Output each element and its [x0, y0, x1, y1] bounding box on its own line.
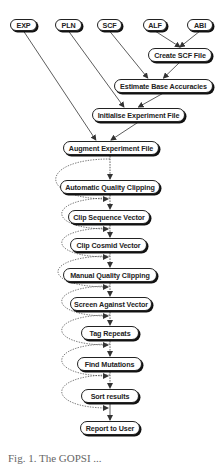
node-label: Initialise Experiment File [98, 111, 180, 120]
edge-scf-to-estimate [110, 31, 148, 78]
input-node-exp: EXP [10, 19, 37, 31]
node-label: Clip Cosmid Vector [76, 241, 140, 250]
node-label: ALF [148, 21, 162, 30]
node-label: ABI [194, 21, 206, 30]
input-node-abi: ABI [187, 19, 213, 31]
figure-caption: Fig. 1. The GOPSI ... [8, 452, 102, 464]
edge-alf-to-create_scf [155, 31, 180, 47]
process-node-estimate: Estimate Base Accuracies [114, 79, 213, 93]
process-node-mutations: Find Mutations [77, 357, 142, 371]
edge-estimate-to-initialise [139, 93, 164, 107]
node-label: Report to User [86, 424, 135, 433]
node-label: Find Mutations [85, 360, 135, 369]
process-node-sort: Sort results [81, 389, 139, 403]
node-label: EXP [16, 21, 30, 30]
process-node-report: Report to User [80, 421, 140, 435]
edge-abi-to-create_scf [180, 31, 200, 47]
edge-exp-to-augment [24, 31, 96, 140]
node-label: Create SCF File [154, 51, 206, 60]
node-label: Screen Against Vector [74, 300, 148, 309]
node-label: Manual Quality Clipping [70, 271, 150, 280]
process-node-initialise: Initialise Experiment File [92, 108, 185, 122]
process-node-screen: Screen Against Vector [70, 297, 152, 311]
node-label: Estimate Base Accuracies [120, 82, 207, 91]
process-node-augment: Augment Experiment File [63, 141, 159, 155]
node-label: Tag Repeats [89, 329, 130, 338]
process-node-manual-clip: Manual Quality Clipping [63, 268, 157, 282]
node-label: Automatic Quality Clipping [65, 183, 155, 192]
process-node-tag: Tag Repeats [81, 326, 139, 340]
process-node-auto-clip: Automatic Quality Clipping [60, 180, 160, 194]
node-label: Clip Sequence Vector [73, 213, 145, 222]
node-label: Augment Experiment File [69, 144, 153, 153]
process-node-clip-cos: Clip Cosmid Vector [70, 238, 147, 252]
node-label: PLN [61, 21, 75, 30]
process-node-clip-seq: Clip Sequence Vector [68, 210, 150, 224]
edge-initialise-to-augment [111, 122, 139, 140]
node-label: Sort results [91, 392, 130, 401]
edge-pln-to-initialise [69, 31, 124, 107]
input-node-pln: PLN [55, 19, 82, 31]
input-node-alf: ALF [143, 19, 167, 31]
input-node-scf: SCF [97, 19, 122, 31]
edge-create_scf-to-estimate [164, 62, 181, 78]
node-label: SCF [102, 21, 116, 30]
process-node-create-scf: Create SCF File [148, 48, 212, 62]
